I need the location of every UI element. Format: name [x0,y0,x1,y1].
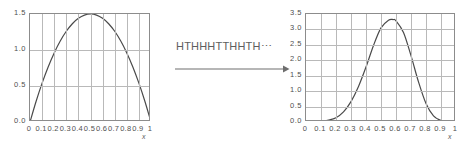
x-tick-label: 0.9 [432,125,448,133]
transformation-arrow [175,60,291,70]
chart-right-x-axis-label: x [448,133,452,140]
x-tick-label: 1 [142,125,158,133]
x-tick-label: 1 [447,125,463,133]
x-tick-label: 0.3 [342,125,358,133]
gridline-horizontal [306,29,454,30]
transformation-annotation: HTHHHTTHHTH⋯ [176,40,292,72]
y-tick-label: 0.0 [283,117,302,125]
x-tick-label: 0.7 [402,125,418,133]
gridline-horizontal [306,45,454,46]
x-tick-label: 0 [297,125,313,133]
y-tick-label: 0.5 [0,81,26,89]
gridline-vertical [127,14,128,120]
y-tick-label: 1.5 [0,9,26,17]
gridline-horizontal [306,60,454,61]
y-tick-label: 1.5 [283,71,302,79]
coin-flip-transformation-figure: 0.00.51.01.5 00.10.20.30.40.50.60.70.80.… [0,0,468,154]
y-tick-label: 1.0 [0,45,26,53]
gridline-horizontal [306,107,454,108]
gridline-horizontal [30,50,149,51]
y-tick-label: 1.0 [283,86,302,94]
x-tick-label: 0.2 [327,125,343,133]
gridline-vertical [78,14,79,120]
x-tick-label: 0.8 [417,125,433,133]
y-tick-label: 3.0 [283,24,302,32]
x-tick-label: 0.1 [312,125,328,133]
gridline-horizontal [30,86,149,87]
gridline-vertical [42,14,43,120]
x-tick-label: 0.4 [357,125,373,133]
x-tick-label: 0.6 [387,125,403,133]
arrow-right-icon [175,64,291,74]
y-tick-label: 2.5 [283,40,302,48]
gridline-horizontal [306,76,454,77]
chart-left-plot-area [29,13,150,121]
gridline-vertical [66,14,67,120]
y-tick-label: 2.0 [283,55,302,63]
chart-left: 0.00.51.01.5 00.10.20.30.40.50.60.70.80.… [0,0,160,154]
chart-right: 0.00.51.01.52.02.53.03.5 00.10.20.30.40.… [283,0,468,154]
coin-sequence-label: HTHHHTTHHTH⋯ [176,40,272,53]
gridline-horizontal [306,91,454,92]
chart-left-curve [30,14,150,121]
chart-left-x-axis-label: x [142,133,146,140]
gridline-vertical [103,14,104,120]
gridline-vertical [54,14,55,120]
gridline-vertical [115,14,116,120]
chart-right-plot-area [305,13,455,121]
y-tick-label: 0.0 [0,117,26,125]
x-tick-label: 0.5 [372,125,388,133]
gridline-vertical [139,14,140,120]
gridline-vertical [91,14,92,120]
y-tick-label: 0.5 [283,102,302,110]
y-tick-label: 3.5 [283,9,302,17]
